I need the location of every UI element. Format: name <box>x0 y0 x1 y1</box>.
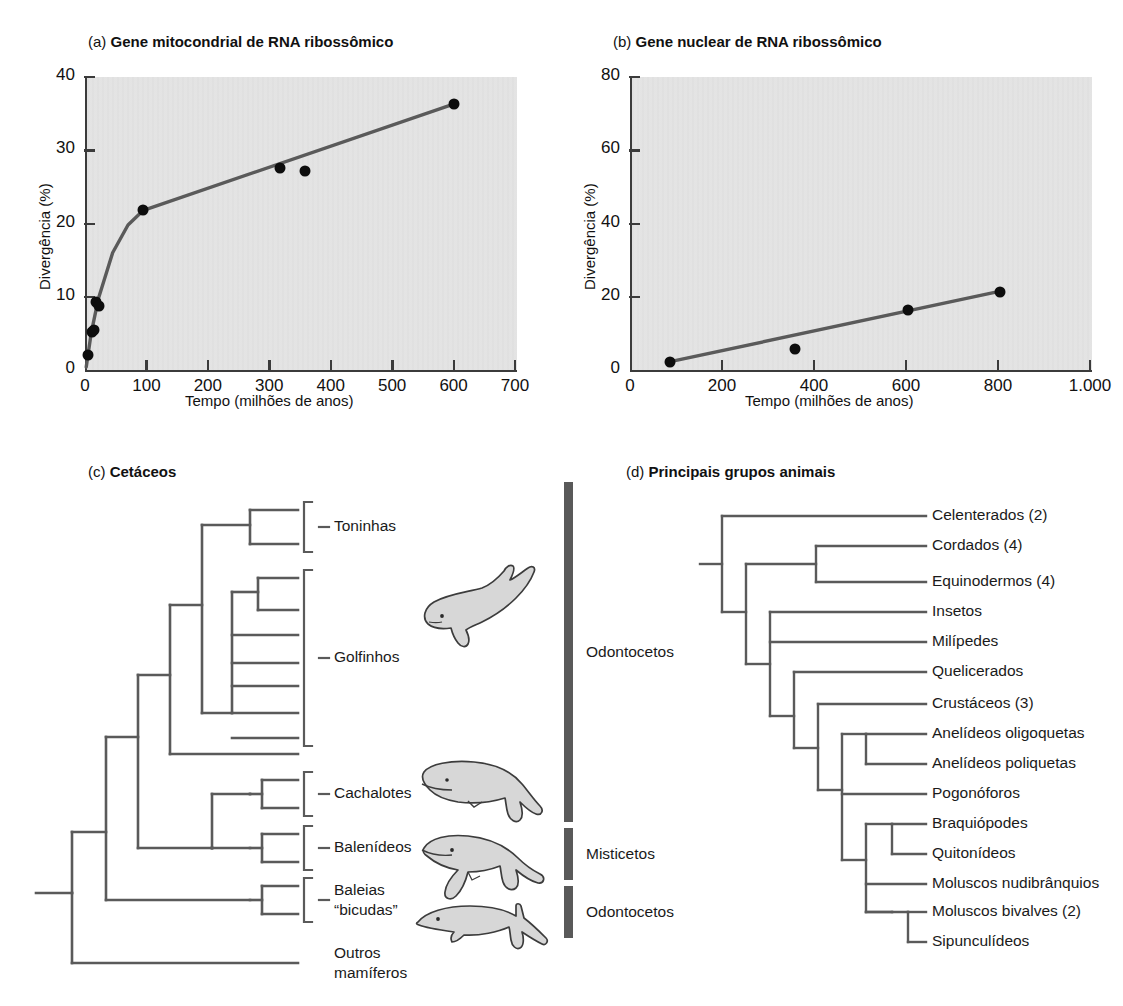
chart-b-ytick-mark <box>629 149 640 151</box>
tip-label-moluscos-nudibranquios: Moluscos nudibrânquios <box>932 874 1099 891</box>
tip-label-outros-mamiferos-line2: mamíferos <box>334 964 407 981</box>
chart-a-ytick-label: 0 <box>23 358 75 378</box>
chart-a: 0102030400100200300400500600700 Tempo (m… <box>0 0 540 430</box>
chart-b-xtick-mark <box>1089 360 1091 371</box>
tip-label-quelicerados: Quelicerados <box>932 662 1023 679</box>
tip-label-cordados: Cordados (4) <box>932 536 1022 553</box>
group-bar-odontocetos-top <box>564 482 573 822</box>
tip-label-balenideos: Balenídeos <box>334 838 412 855</box>
chart-b-data-point <box>789 344 800 355</box>
chart-a-ytick-mark <box>84 223 95 225</box>
chart-b-xtick-mark <box>997 360 999 371</box>
tip-label-crustaceos: Crustáceos (3) <box>932 694 1034 711</box>
tip-label-pogonoforos: Pogonóforos <box>932 784 1020 801</box>
chart-a-xtick-mark <box>514 360 516 371</box>
chart-b-yaxis-title: Divergência (%) <box>581 183 598 290</box>
chart-b-ytick-mark <box>629 296 640 298</box>
chart-b: 02040608002004006008001.000 Tempo (milhõ… <box>545 0 1115 430</box>
cetacean-cladogram: Toninhas Golfinhos Cachalotes Balenídeos… <box>0 460 620 1006</box>
chart-a-xtick-mark <box>391 360 393 371</box>
chart-a-ytick-mark <box>84 149 95 151</box>
chart-b-ytick-label: 80 <box>568 65 620 85</box>
chart-a-xtick-mark <box>268 360 270 371</box>
group-bar-misticetos <box>564 828 573 880</box>
tip-label-braquiopodes: Braquiópodes <box>932 814 1028 831</box>
chart-b-trend-line <box>669 291 1002 362</box>
chart-b-xtick-label: 0 <box>590 376 670 396</box>
animal-groups-cladogram: Celenterados (2) Cordados (4) Equinoderm… <box>630 460 1123 1006</box>
chart-a-trend-line <box>86 104 453 367</box>
chart-a-data-point <box>89 325 100 336</box>
tip-label-anelideos-poliquetas: Anelídeos poliquetas <box>932 754 1076 771</box>
chart-b-series <box>545 0 1115 430</box>
tip-label-baleias-bicudas-line1: Baleias <box>334 881 385 898</box>
chart-b-xaxis-title: Tempo (milhões de anos) <box>745 392 913 409</box>
chart-a-xtick-label: 700 <box>475 376 555 396</box>
chart-b-ytick-label: 60 <box>568 138 620 158</box>
chart-a-data-point <box>93 300 104 311</box>
chart-b-data-point <box>995 286 1006 297</box>
tip-label-toninhas: Toninhas <box>334 517 396 534</box>
chart-a-data-point <box>138 205 149 216</box>
tip-label-quitonideos: Quitonídeos <box>932 844 1016 861</box>
tip-label-milipedes: Milípedes <box>932 632 998 649</box>
chart-b-data-point <box>903 305 914 316</box>
tip-label-golfinhos: Golfinhos <box>334 648 399 665</box>
tip-label-cachalotes: Cachalotes <box>334 784 412 801</box>
chart-a-xtick-mark <box>207 360 209 371</box>
chart-a-data-point <box>83 350 94 361</box>
tip-label-baleias-bicudas-line2: “bicudas” <box>334 901 398 918</box>
chart-b-xtick-mark <box>721 360 723 371</box>
tip-label-outros-mamiferos-line1: Outros <box>334 944 381 961</box>
chart-a-data-point <box>448 99 459 110</box>
group-bar-odontocetos-bottom <box>564 886 573 938</box>
tip-label-sipunculideos: Sipunculídeos <box>932 932 1029 949</box>
chart-b-data-point <box>665 356 676 367</box>
chart-b-xtick-label: 1.000 <box>1050 376 1123 396</box>
chart-a-xaxis-title: Tempo (milhões de anos) <box>185 392 353 409</box>
chart-a-xtick-mark <box>145 360 147 371</box>
chart-a-data-point <box>275 162 286 173</box>
tip-label-anelideos-oligoquetas: Anelídeos oligoquetas <box>932 724 1085 741</box>
chart-b-xtick-label: 800 <box>958 376 1038 396</box>
tip-label-insetos: Insetos <box>932 602 982 619</box>
chart-b-ytick-mark <box>629 76 640 78</box>
chart-b-ytick-label: 0 <box>568 358 620 378</box>
chart-a-ytick-label: 40 <box>23 65 75 85</box>
chart-b-ytick-mark <box>629 223 640 225</box>
chart-a-data-point <box>299 166 310 177</box>
tip-label-celenterados: Celenterados (2) <box>932 506 1047 523</box>
chart-a-xtick-mark <box>453 360 455 371</box>
chart-a-xtick-mark <box>330 360 332 371</box>
chart-a-ytick-label: 30 <box>23 138 75 158</box>
chart-a-yaxis-title: Divergência (%) <box>36 183 53 290</box>
chart-b-xtick-mark <box>813 360 815 371</box>
tip-label-equinodermos: Equinodermos (4) <box>932 572 1055 589</box>
chart-a-ytick-mark <box>84 76 95 78</box>
chart-b-xtick-mark <box>905 360 907 371</box>
tip-label-moluscos-bivalves: Moluscos bivalves (2) <box>932 902 1081 919</box>
